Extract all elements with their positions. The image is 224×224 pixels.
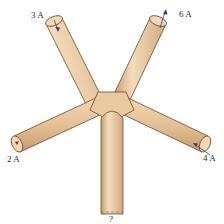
current-label-upper-left: 3 A [31,11,44,20]
wire-right [122,98,213,154]
junction-diagram [0,0,224,224]
wire-left [9,98,102,154]
wire-upper-right [114,13,168,100]
wire-upper-left [44,13,102,104]
current-label-upper-right: 6 A [179,10,192,19]
current-label-right: 4 A [203,154,216,163]
current-label-left: 2 A [7,155,20,164]
wire-bottom [101,111,123,214]
current-label-bottom: ? [109,215,113,224]
